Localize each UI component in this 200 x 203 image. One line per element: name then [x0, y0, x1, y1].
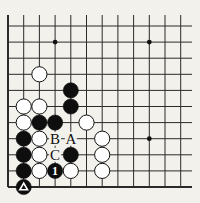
white-stone: [32, 131, 47, 146]
go-board: 1 BAC: [0, 0, 200, 203]
white-stone: [79, 115, 94, 130]
white-stone: [32, 163, 47, 178]
black-stone: [63, 83, 78, 98]
star-point: [53, 40, 58, 45]
white-stone: [95, 131, 110, 146]
black-stone: [16, 147, 31, 162]
star-point: [147, 136, 152, 141]
star-point: [147, 40, 152, 45]
white-stone: [16, 115, 31, 130]
black-stone: [48, 115, 63, 130]
black-stone: 1: [48, 163, 63, 178]
stones-layer: 1: [16, 67, 110, 195]
point-label-b: B: [50, 131, 60, 147]
white-stone: [32, 99, 47, 114]
point-label-a: A: [65, 131, 76, 147]
white-stone: [95, 163, 110, 178]
black-stone: [63, 147, 78, 162]
white-stone: [63, 163, 78, 178]
white-stone: [95, 147, 110, 162]
white-stone: [16, 99, 31, 114]
white-stone: [32, 147, 47, 162]
white-stone: [32, 67, 47, 82]
black-stone: [16, 163, 31, 178]
black-stone: [16, 131, 31, 146]
black-stone: [32, 115, 47, 130]
point-label-c: C: [50, 147, 60, 163]
black-stone: [63, 99, 78, 114]
move-number: 1: [52, 164, 58, 178]
black-stone: [16, 179, 31, 194]
